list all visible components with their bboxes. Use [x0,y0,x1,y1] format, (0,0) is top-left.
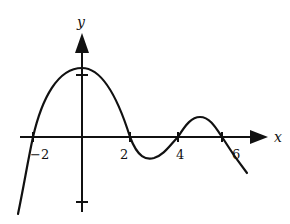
x-axis-arrow-icon [250,130,268,144]
y-axis-arrow-icon [75,33,89,53]
function-curve [18,68,247,214]
x-tick-label-2: 2 [120,147,128,162]
function-graph: x y −2 2 4 6 [0,0,290,224]
x-tick-label-neg2: −2 [30,147,49,162]
x-axis-label: x [274,129,282,145]
y-axis-label: y [76,14,86,30]
x-tick-label-4: 4 [176,147,184,162]
